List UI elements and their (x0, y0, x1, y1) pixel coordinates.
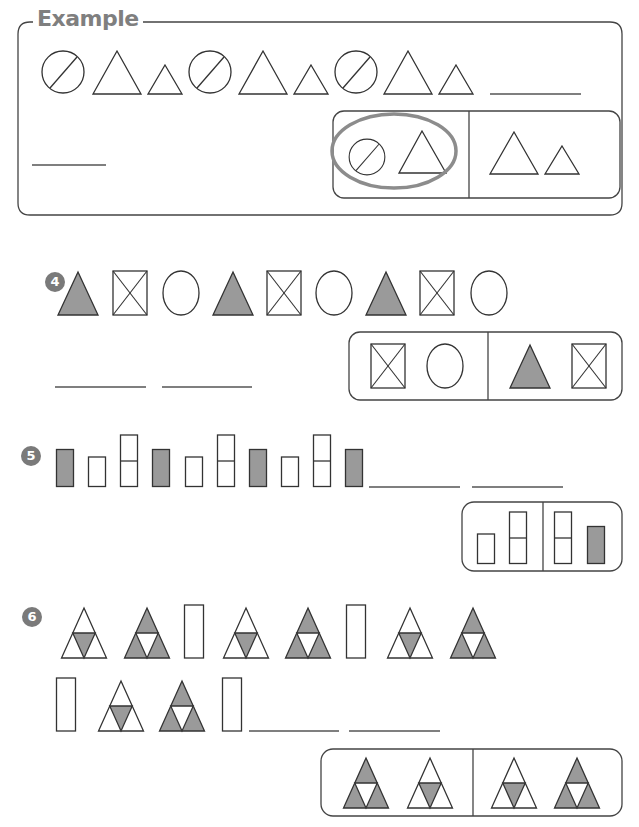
rect-short-icon (186, 457, 203, 487)
triangle-small-icon (148, 65, 182, 94)
rect-tall-icon (57, 678, 76, 731)
tri-corners-filled-icon (451, 608, 496, 658)
triangle-filled-icon (510, 345, 550, 388)
tri-center-filled-icon (99, 681, 144, 731)
q6-choice-2[interactable] (492, 758, 600, 808)
circle-slash-icon (189, 51, 231, 93)
circle-icon (163, 271, 199, 315)
worksheet-canvas (0, 0, 639, 827)
tri-corners-filled-icon (344, 758, 389, 808)
triangle-small-icon (294, 65, 328, 94)
triangle-large-icon (399, 131, 446, 173)
square-x-icon (420, 271, 454, 315)
rect-filled-icon (153, 450, 170, 487)
rect-split-icon (510, 512, 527, 564)
example-choice-2[interactable] (490, 132, 579, 174)
rect-short-icon (478, 534, 495, 564)
square-x-icon (267, 271, 301, 315)
question-number-badge: 6 (22, 607, 42, 627)
rect-filled-icon (588, 527, 605, 564)
circle-slash-icon (42, 51, 84, 93)
rect-split-icon (555, 512, 572, 564)
rect-filled-icon (346, 450, 363, 487)
tri-center-filled-icon (224, 608, 269, 658)
rect-short-icon (89, 457, 106, 487)
tri-center-filled-icon (388, 608, 433, 658)
tri-corners-filled-icon (286, 608, 331, 658)
question-number-badge: 5 (21, 446, 41, 466)
example-label: Example (33, 6, 143, 31)
tri-corners-filled-icon (160, 681, 205, 731)
tri-center-filled-icon (492, 758, 537, 808)
q6-choice-1[interactable] (344, 758, 453, 808)
q5-choice-1[interactable] (478, 512, 527, 564)
rect-split-icon (121, 435, 138, 487)
tri-center-filled-icon (62, 608, 107, 658)
triangle-large-icon (490, 132, 538, 174)
triangle-large-icon (239, 51, 287, 94)
q6-sequence-row-2 (57, 678, 242, 731)
rect-short-icon (282, 457, 299, 487)
triangle-filled-icon (213, 272, 253, 315)
circle-icon (471, 271, 507, 315)
rect-split-icon (218, 435, 235, 487)
triangle-small-icon (439, 65, 473, 94)
square-x-icon (371, 344, 405, 388)
q5-sequence (57, 435, 363, 487)
example-choice-1[interactable] (332, 114, 456, 188)
tri-corners-filled-icon (125, 608, 170, 658)
triangle-small-icon (545, 146, 579, 174)
circle-slash-icon (335, 51, 377, 93)
rect-filled-icon (250, 450, 267, 487)
q4-choice-2[interactable] (510, 344, 606, 388)
triangle-filled-icon (366, 272, 406, 315)
circle-icon (427, 344, 463, 388)
example-panel (18, 22, 622, 215)
circle-icon (316, 271, 352, 315)
square-x-icon (572, 344, 606, 388)
tri-corners-filled-icon (555, 758, 600, 808)
rect-tall-icon (347, 605, 366, 658)
q5-choice-2[interactable] (555, 512, 605, 564)
q6-sequence-row-1 (62, 605, 496, 658)
triangle-large-icon (93, 51, 141, 94)
rect-split-icon (314, 435, 331, 487)
rect-tall-icon (223, 678, 242, 731)
example-sequence (42, 51, 473, 94)
question-number-badge: 4 (45, 272, 65, 292)
q4-sequence (58, 271, 507, 315)
triangle-large-icon (384, 51, 432, 94)
circle-slash-icon (349, 139, 385, 175)
rect-tall-icon (185, 605, 204, 658)
q4-choice-1[interactable] (371, 344, 463, 388)
square-x-icon (113, 271, 147, 315)
rect-filled-icon (57, 450, 74, 487)
tri-center-filled-icon (408, 758, 453, 808)
